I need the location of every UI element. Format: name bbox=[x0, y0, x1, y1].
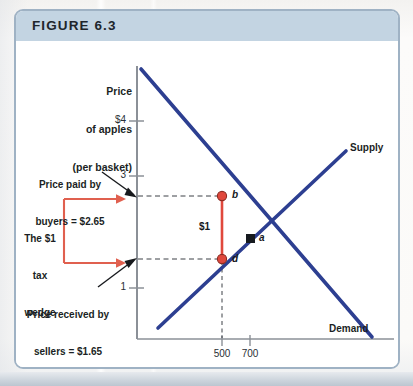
tax-wedge-line2: tax bbox=[18, 270, 62, 282]
tax-amount-label: $1 bbox=[199, 221, 210, 233]
figure-header-band: FIGURE 6.3 bbox=[16, 11, 398, 42]
figure-root: FIGURE 6.3 bbox=[0, 0, 413, 386]
x-tick-label-700: 700 bbox=[236, 348, 264, 360]
plot-area: Price of apples (per basket) $4 3 1 500 … bbox=[16, 41, 398, 367]
x-axis-title: Quantity of apples (baskets) bbox=[266, 346, 390, 369]
demand-curve bbox=[141, 69, 372, 337]
x-tick-label-500: 500 bbox=[208, 348, 236, 360]
figure-box: FIGURE 6.3 bbox=[14, 9, 400, 369]
buyer-price-line1: Price paid by bbox=[18, 179, 122, 191]
page-bottom-edge bbox=[0, 372, 413, 386]
figure-number-label: FIGURE 6.3 bbox=[32, 18, 117, 33]
demand-curve-label: Demand bbox=[329, 323, 368, 335]
seller-price-line1: Price received by bbox=[16, 309, 120, 321]
point-b-label: b bbox=[232, 189, 238, 201]
point-b-marker bbox=[217, 191, 226, 200]
y-axis-title-line1: Price bbox=[48, 85, 132, 98]
point-a-marker bbox=[246, 234, 255, 243]
point-a-label: a bbox=[259, 232, 265, 244]
supply-curve-label: Supply bbox=[350, 142, 383, 154]
y-tick-label-4: $4 bbox=[108, 114, 126, 126]
seller-price-annotation: Price received by sellers = $1.65 bbox=[16, 285, 120, 369]
point-d-marker bbox=[217, 254, 226, 263]
seller-price-line2: sellers = $1.65 bbox=[16, 346, 120, 358]
point-d-label: d bbox=[232, 253, 238, 265]
tax-wedge-line1: The $1 bbox=[18, 233, 62, 245]
